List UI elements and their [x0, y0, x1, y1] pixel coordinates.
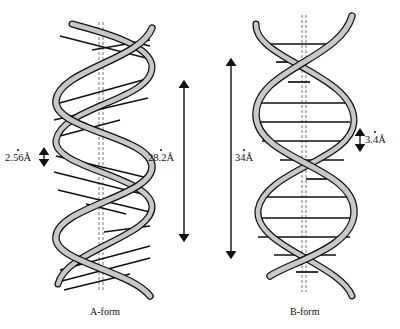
a-form-rise-label: 2.56Å — [5, 153, 31, 164]
a-form-caption: A-form — [90, 307, 120, 317]
dna-helix-diagram — [0, 0, 400, 329]
b-form-helix-axis — [302, 15, 306, 292]
b-form-pitch-label: 34Å — [235, 153, 253, 164]
b-form-caption: B-form — [290, 307, 319, 317]
a-form-pitch-label: 28.2Å — [148, 153, 174, 164]
b-form-rise-label: 3.4Å — [365, 135, 386, 146]
